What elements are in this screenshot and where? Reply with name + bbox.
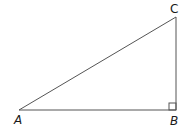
right-angle-marker xyxy=(169,103,176,110)
vertex-label-a: A xyxy=(13,113,22,127)
triangle-diagram: C B A xyxy=(0,0,189,128)
vertex-label-c: C xyxy=(170,2,178,16)
triangle-abc xyxy=(19,17,176,110)
vertex-label-b: B xyxy=(170,114,178,128)
